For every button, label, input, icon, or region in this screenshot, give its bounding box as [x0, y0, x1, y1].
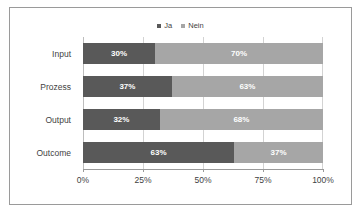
bar-segment-nein[interactable]: 37%: [234, 142, 323, 163]
bar-rows: 30%70%37%63%32%68%63%37%: [83, 37, 323, 169]
bar-row: 37%63%: [83, 76, 323, 97]
x-axis-tick: [143, 169, 144, 172]
legend-swatch-nein: [181, 24, 185, 28]
bar-segment-ja[interactable]: 32%: [83, 109, 160, 130]
x-axis-tick: [263, 169, 264, 172]
x-axis-tick-label: 0%: [77, 175, 89, 185]
x-axis-tick-label: 100%: [312, 175, 334, 185]
legend-swatch-ja: [157, 24, 161, 28]
bar-data-label: 30%: [111, 50, 127, 58]
chart-legend: Ja Nein: [10, 22, 351, 30]
legend-label-ja: Ja: [164, 22, 172, 30]
y-axis-category-labels: Input Prozess Output Outcome: [10, 37, 78, 169]
y-axis-label-prozess: Prozess: [10, 76, 78, 97]
y-axis-label-input: Input: [10, 43, 78, 64]
bar-segment-ja[interactable]: 63%: [83, 142, 234, 163]
bar-row: 30%70%: [83, 43, 323, 64]
bar-data-label: 63%: [151, 149, 167, 157]
x-axis-tick: [203, 169, 204, 172]
legend-label-nein: Nein: [188, 22, 203, 30]
bar-data-label: 63%: [239, 83, 255, 91]
bar-data-label: 32%: [113, 116, 129, 124]
x-axis-tick: [323, 169, 324, 172]
legend-item-ja[interactable]: Ja: [157, 22, 172, 30]
chart-container: Ja Nein Input Prozess Output Outcome 30%…: [9, 7, 352, 205]
y-axis-label-outcome: Outcome: [10, 142, 78, 163]
bar-segment-nein[interactable]: 70%: [155, 43, 323, 64]
x-axis-tick-label: 25%: [134, 175, 151, 185]
bar-segment-ja[interactable]: 37%: [83, 76, 172, 97]
bar-segment-nein[interactable]: 68%: [160, 109, 323, 130]
x-axis-tick: [83, 169, 84, 172]
bar-segment-nein[interactable]: 63%: [172, 76, 323, 97]
y-axis-label-output: Output: [10, 109, 78, 130]
bar-row: 32%68%: [83, 109, 323, 130]
bar-data-label: 37%: [119, 83, 135, 91]
bar-segment-ja[interactable]: 30%: [83, 43, 155, 64]
x-axis-tick-labels: 0%25%50%75%100%: [83, 175, 323, 189]
plot-area: 30%70%37%63%32%68%63%37%: [83, 37, 323, 169]
bar-data-label: 68%: [233, 116, 249, 124]
bar-data-label: 37%: [271, 149, 287, 157]
legend-item-nein[interactable]: Nein: [181, 22, 203, 30]
bar-data-label: 70%: [231, 50, 247, 58]
bar-row: 63%37%: [83, 142, 323, 163]
x-axis-tick-label: 75%: [254, 175, 271, 185]
x-axis-tick-label: 50%: [194, 175, 211, 185]
